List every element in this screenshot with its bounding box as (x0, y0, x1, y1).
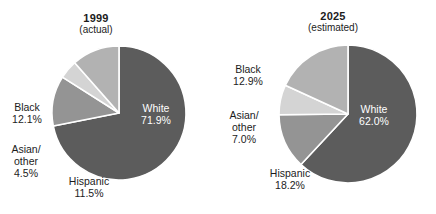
label-value: 18.2% (252, 180, 328, 192)
chart-2025-label-hispanic: Hispanic 18.2% (252, 168, 328, 192)
chart-2025-label-black: Black 12.9% (222, 64, 274, 88)
chart-1999-label-asian-other: Asian/ other 4.5% (0, 144, 52, 180)
label-value: 7.0% (218, 134, 270, 146)
pie-chart-figure: 1999 (actual) White 71.9% Black 12.1% As… (0, 0, 436, 214)
chart-1999: 1999 (actual) White 71.9% Black 12.1% As… (0, 0, 218, 214)
chart-2025: 2025 (estimated) White 62.0% Black 12.9%… (218, 0, 436, 214)
label-value: 12.9% (222, 76, 274, 88)
label-value: 12.1% (2, 114, 52, 126)
chart-2025-label-white: White 62.0% (346, 104, 402, 128)
chart-1999-label-black: Black 12.1% (2, 102, 52, 126)
label-value: 11.5% (52, 188, 126, 200)
chart-1999-label-hispanic: Hispanic 11.5% (52, 176, 126, 200)
chart-1999-label-white: White 71.9% (128, 103, 184, 127)
label-value: 4.5% (0, 168, 52, 180)
label-value: 62.0% (346, 116, 402, 128)
chart-2025-label-asian-other: Asian/ other 7.0% (218, 110, 270, 146)
label-value: 71.9% (128, 115, 184, 127)
